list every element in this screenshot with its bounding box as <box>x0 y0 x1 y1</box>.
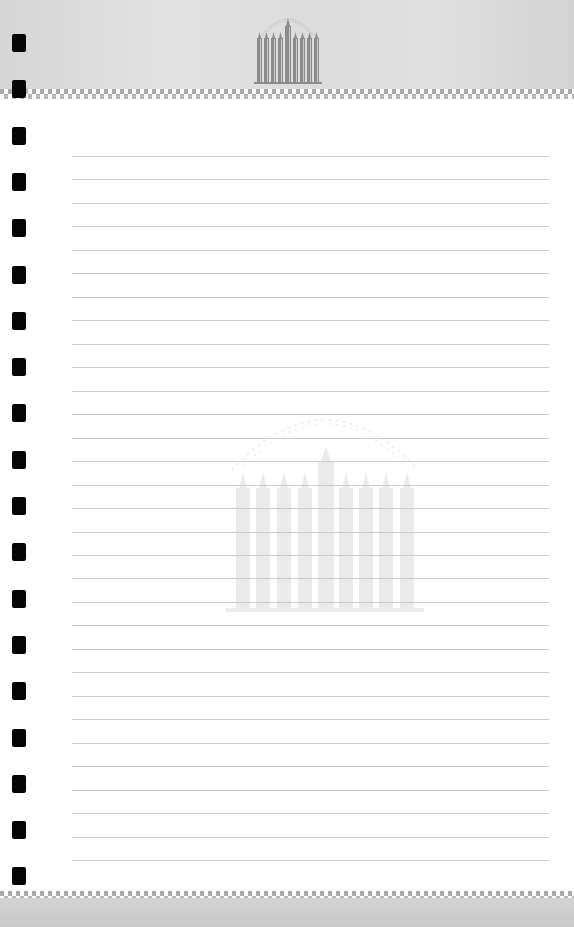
punch-hole <box>12 312 26 330</box>
punch-hole <box>12 358 26 376</box>
ruled-line <box>72 297 549 298</box>
ruled-line <box>72 672 549 673</box>
punch-hole <box>12 219 26 237</box>
ruled-line <box>72 649 549 650</box>
ruled-line <box>72 578 549 579</box>
ruled-line <box>72 203 549 204</box>
ruled-line <box>72 273 549 274</box>
punch-hole <box>12 775 26 793</box>
punch-hole <box>12 451 26 469</box>
ruled-line <box>72 837 549 838</box>
ruled-line <box>72 813 549 814</box>
punch-hole <box>12 497 26 515</box>
ruled-line <box>72 320 549 321</box>
top-checker-border <box>0 89 574 99</box>
ruled-line <box>72 156 549 157</box>
ruled-line <box>72 555 549 556</box>
menorah-icon <box>252 8 324 86</box>
ruled-line <box>72 344 549 345</box>
ruled-line <box>72 438 549 439</box>
punch-hole <box>12 266 26 284</box>
punch-hole <box>12 729 26 747</box>
punch-hole <box>12 590 26 608</box>
punch-hole <box>12 173 26 191</box>
ruled-line <box>72 625 549 626</box>
ruled-line <box>72 414 549 415</box>
ruled-line <box>72 766 549 767</box>
ruled-line <box>72 367 549 368</box>
notepad-footer <box>0 898 574 927</box>
ruled-line <box>72 696 549 697</box>
punch-hole <box>12 404 26 422</box>
ruled-line <box>72 790 549 791</box>
ruled-line <box>72 743 549 744</box>
ruled-line <box>72 485 549 486</box>
ruled-line <box>72 719 549 720</box>
ruled-line <box>72 602 549 603</box>
punch-hole <box>12 867 26 885</box>
ruled-line <box>72 532 549 533</box>
punch-hole <box>12 636 26 654</box>
punch-hole <box>12 127 26 145</box>
punch-hole <box>12 80 26 98</box>
ruled-line <box>72 250 549 251</box>
punch-hole <box>12 543 26 561</box>
ruled-line <box>72 860 549 861</box>
ruled-line <box>72 226 549 227</box>
punch-hole <box>12 682 26 700</box>
ruled-line <box>72 508 549 509</box>
punch-hole <box>12 34 26 52</box>
ruled-line <box>72 391 549 392</box>
ruled-line <box>72 461 549 462</box>
ruled-line <box>72 179 549 180</box>
punch-hole <box>12 821 26 839</box>
